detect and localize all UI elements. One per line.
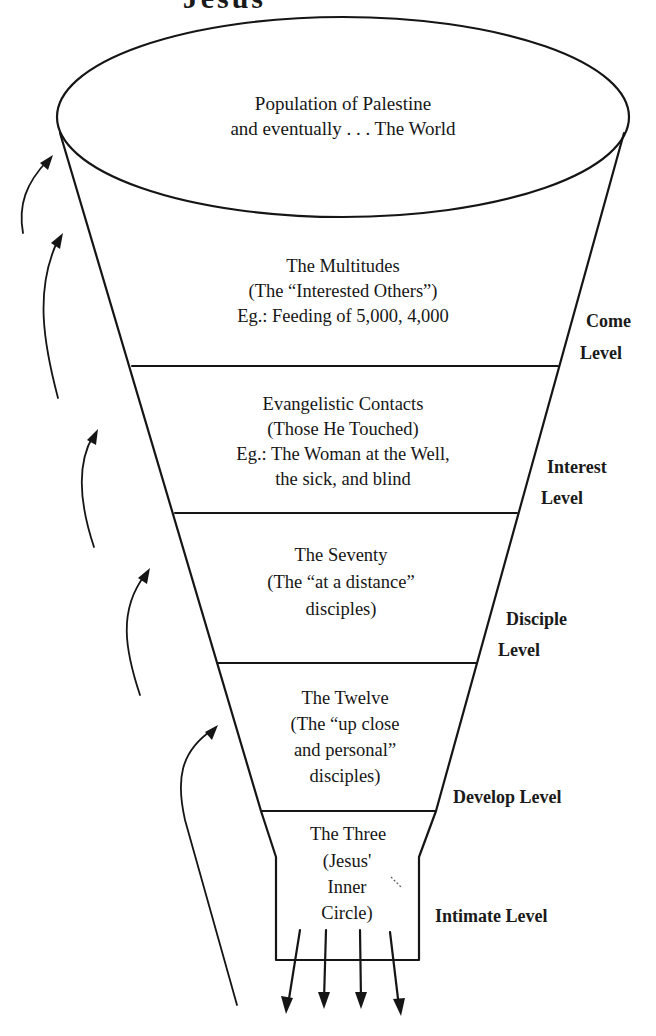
tier-top-population: Population of Palestine and eventually .… <box>230 93 456 139</box>
tier-twelve-line-2: (The “up close <box>291 714 400 735</box>
tier-top-line-1: Population of Palestine <box>255 93 431 114</box>
tier-three-line-1: The Three <box>310 824 386 844</box>
tier-multitudes: The Multitudes (The “Interested Others”)… <box>237 256 449 326</box>
tier-twelve-line-3: and personal” <box>294 740 396 760</box>
funnel-left-wall <box>60 133 261 811</box>
tier-three: The Three (Jesus' Inner Circle) <box>310 824 386 924</box>
scan-artifact-mark <box>391 877 401 887</box>
upward-arrow-icon <box>22 155 53 233</box>
tier-twelve: The Twelve (The “up close and personal” … <box>291 688 400 787</box>
tier-contacts-line-3: Eg.: The Woman at the Well, <box>236 444 449 464</box>
level-come-line-2: Level <box>580 343 622 363</box>
tier-contacts-line-4: the sick, and blind <box>275 469 411 489</box>
tier-three-line-2: (Jesus' <box>323 851 372 872</box>
tier-contacts-line-1: Evangelistic Contacts <box>263 394 424 414</box>
level-intimate: Intimate Level <box>435 906 547 926</box>
level-labels: Come Level Interest Level Disciple Level… <box>435 311 631 926</box>
tier-seventy-line-2: (The “at a distance” <box>267 572 414 593</box>
level-disciple-line-2: Level <box>498 640 540 660</box>
downward-arrow-icon <box>390 932 405 1016</box>
tier-multitudes-line-2: (The “Interested Others”) <box>248 281 437 302</box>
level-disciple-line-1: Disciple <box>506 609 567 629</box>
tier-multitudes-line-1: The Multitudes <box>286 256 400 276</box>
tier-twelve-line-4: disciples) <box>310 766 381 787</box>
downward-arrow-icon <box>281 930 300 1014</box>
downward-arrow-icon <box>355 930 367 1009</box>
tier-three-line-4: Circle) <box>321 903 372 924</box>
tier-multitudes-line-3: Eg.: Feeding of 5,000, 4,000 <box>237 306 449 326</box>
left-upward-arrows <box>22 155 237 1005</box>
funnel-mouth-ellipse <box>57 17 629 217</box>
tier-three-line-3: Inner <box>327 877 366 897</box>
tier-top-line-2: and eventually . . . The World <box>230 118 456 139</box>
upward-arrow-icon <box>127 568 150 695</box>
tier-twelve-line-1: The Twelve <box>301 688 388 708</box>
upward-arrow-icon <box>82 429 98 547</box>
tier-seventy-line-1: The Seventy <box>295 545 389 565</box>
funnel-diagram: Jesus' Population of Palestine and event… <box>0 0 656 1036</box>
level-interest-line-2: Level <box>541 488 583 508</box>
upward-arrow-icon <box>181 725 237 1005</box>
downward-arrow-icon <box>318 930 330 1009</box>
tier-seventy: The Seventy (The “at a distance” discipl… <box>267 545 414 620</box>
tier-contacts-line-2: (Those He Touched) <box>267 419 418 440</box>
tier-seventy-line-3: disciples) <box>306 599 377 620</box>
upward-arrow-icon <box>44 233 63 398</box>
level-interest-line-1: Interest <box>547 457 607 477</box>
tier-evangelistic-contacts: Evangelistic Contacts (Those He Touched)… <box>236 394 449 489</box>
diagram-title-fragment: Jesus' <box>183 0 278 14</box>
level-come-line-1: Come <box>586 311 631 331</box>
bottom-downward-arrows <box>281 930 405 1016</box>
level-develop: Develop Level <box>453 787 561 807</box>
